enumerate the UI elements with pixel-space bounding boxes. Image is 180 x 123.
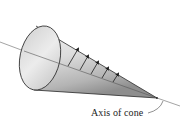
cone-apex (156, 97, 158, 99)
cone-diagram (0, 0, 180, 123)
label-leader-line (148, 101, 163, 113)
axis-label: Axis of cone (91, 107, 143, 118)
axis-line-back (0, 42, 24, 51)
axis-line-front (157, 98, 180, 106)
